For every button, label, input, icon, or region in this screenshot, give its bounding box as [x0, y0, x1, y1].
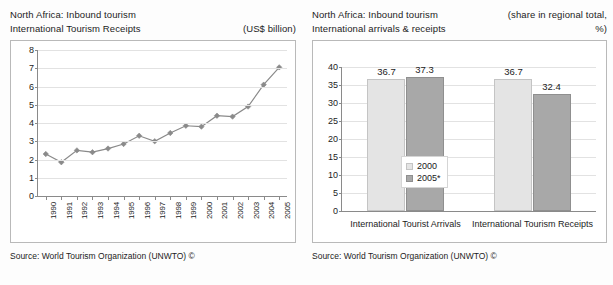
legend-swatch-icon — [406, 163, 413, 170]
gridline — [38, 50, 287, 51]
y-axis-tick-label: 7 — [29, 63, 34, 73]
right-chart-unit-line1: (share in regional total, — [508, 8, 607, 22]
right-chart-frame: 051015202530354036.737.3International To… — [312, 40, 607, 243]
y-axis-tick-label: 15 — [328, 152, 338, 162]
left-chart-frame: 0123456781990199119921993199419951996199… — [10, 40, 296, 243]
right-chart-unit-line2: %) — [595, 22, 607, 36]
x-tick-mark — [46, 196, 47, 200]
x-axis-tick-label: 1996 — [143, 202, 152, 219]
y-tick-mark — [35, 196, 38, 197]
x-axis-tick-label: 1991 — [65, 202, 74, 219]
x-tick-mark — [248, 196, 249, 200]
y-axis-tick-label: 40 — [328, 62, 338, 72]
line-chart-plot-area: 0123456781990199119921993199419951996199… — [37, 50, 287, 197]
y-tick-mark — [35, 87, 38, 88]
right-chart-header: North Africa: Inbound tourism (share in … — [312, 8, 607, 36]
y-axis-tick-label: 35 — [328, 80, 338, 90]
x-tick-mark — [279, 196, 280, 200]
bar-2000-2: 36.7 — [494, 79, 532, 211]
y-tick-mark — [35, 178, 38, 179]
left-chart-header: North Africa: Inbound tourism Internatio… — [10, 8, 296, 36]
y-axis-tick-label: 0 — [29, 191, 34, 201]
y-tick-mark — [35, 68, 38, 69]
right-chart-title-line1: North Africa: Inbound tourism — [312, 8, 438, 22]
x-axis-tick-label: 2001 — [220, 202, 229, 219]
y-axis-tick-label: 6 — [29, 82, 34, 92]
x-axis-tick-label: 2005 — [283, 202, 292, 219]
left-chart-title-line1: North Africa: Inbound tourism — [10, 8, 136, 22]
y-axis-tick-label: 3 — [29, 136, 34, 146]
gridline — [38, 123, 287, 124]
y-axis-tick-label: 5 — [333, 188, 338, 198]
right-chart-title-line2: International arrivals & receipts — [312, 22, 446, 36]
y-tick-mark — [339, 121, 342, 122]
left-chart-source: Source: World Tourism Organization (UNWT… — [10, 251, 296, 261]
bar-value-label: 37.3 — [415, 64, 434, 75]
y-tick-mark — [35, 160, 38, 161]
y-tick-mark — [339, 139, 342, 140]
legend-item-2000: 2000 — [406, 160, 441, 172]
gridline — [38, 68, 287, 69]
category-label: International Tourist Arrivals — [350, 219, 460, 229]
x-axis-tick-label: 1993 — [96, 202, 105, 219]
y-axis-tick-label: 4 — [29, 118, 34, 128]
bar-chart-plot-area: 051015202530354036.737.3International To… — [341, 67, 596, 212]
x-axis-tick-label: 2000 — [205, 202, 214, 219]
x-tick-mark — [186, 196, 187, 200]
bar-2005-2: 32.4 — [533, 94, 571, 211]
x-tick-mark — [139, 196, 140, 200]
y-tick-mark — [35, 105, 38, 106]
x-tick-mark — [233, 196, 234, 200]
bar-2000-1: 36.7 — [367, 79, 405, 211]
gridline — [38, 178, 287, 179]
left-chart-title-line2: International Tourism Receipts — [10, 22, 141, 36]
x-axis-tick-label: 2003 — [252, 202, 261, 219]
left-chart-panel: North Africa: Inbound tourism Internatio… — [0, 0, 306, 285]
y-tick-mark — [35, 123, 38, 124]
x-tick-mark — [217, 196, 218, 200]
y-axis-tick-label: 0 — [333, 206, 338, 216]
x-axis-tick-label: 1999 — [189, 202, 198, 219]
gridline — [38, 105, 287, 106]
x-axis-tick-label: 2002 — [236, 202, 245, 219]
x-axis-tick-label: 2004 — [267, 202, 276, 219]
y-tick-mark — [35, 141, 38, 142]
legend-label: 2000 — [417, 160, 437, 172]
y-axis-tick-label: 20 — [328, 134, 338, 144]
y-tick-mark — [339, 85, 342, 86]
y-axis-tick-label: 10 — [328, 170, 338, 180]
x-tick-mark — [201, 196, 202, 200]
x-tick-mark — [108, 196, 109, 200]
x-tick-mark — [92, 196, 93, 200]
y-tick-mark — [339, 103, 342, 104]
y-axis-tick-label: 1 — [29, 173, 34, 183]
y-tick-mark — [339, 175, 342, 176]
bar-value-label: 32.4 — [542, 81, 561, 92]
x-tick-mark — [124, 196, 125, 200]
y-axis-tick-label: 5 — [29, 100, 34, 110]
x-tick-mark — [170, 196, 171, 200]
bar-value-label: 36.7 — [504, 66, 523, 77]
x-tick-mark — [61, 196, 62, 200]
y-axis-tick-label: 25 — [328, 116, 338, 126]
bar-value-label: 36.7 — [377, 66, 396, 77]
figure-page: North Africa: Inbound tourism Internatio… — [0, 0, 613, 285]
y-tick-mark — [339, 157, 342, 158]
gridline — [38, 160, 287, 161]
legend-swatch-icon — [406, 175, 413, 182]
x-axis-tick-label: 1998 — [174, 202, 183, 219]
x-axis-tick-label: 1990 — [49, 202, 58, 219]
gridline — [38, 141, 287, 142]
left-chart-unit: (US$ billion) — [243, 22, 296, 36]
x-axis-tick-label: 1992 — [80, 202, 89, 219]
gridline — [38, 87, 287, 88]
bar-2005-1: 37.3 — [406, 77, 444, 211]
y-tick-mark — [339, 67, 342, 68]
legend-item-2005: 2005* — [406, 172, 441, 184]
x-tick-mark — [77, 196, 78, 200]
y-axis-tick-label: 8 — [29, 45, 34, 55]
y-tick-mark — [339, 193, 342, 194]
x-tick-mark — [264, 196, 265, 200]
x-axis-tick-label: 1995 — [127, 202, 136, 219]
y-axis-tick-label: 30 — [328, 98, 338, 108]
